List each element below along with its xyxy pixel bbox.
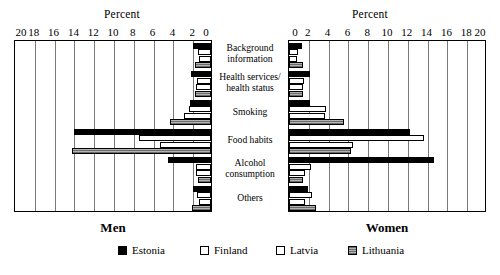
- bar-estonia: [289, 186, 308, 192]
- gridline: [35, 41, 36, 211]
- legend-item-lithuania: Lithuania: [348, 243, 404, 257]
- plot-area-women: [288, 40, 486, 212]
- axis-tick-label: 20: [16, 26, 27, 38]
- bar-estonia: [289, 71, 310, 77]
- axis-tick-label: 6: [345, 26, 351, 38]
- bar-estonia: [168, 157, 211, 163]
- category-label: Food habits: [213, 135, 287, 146]
- axis-tick-label: 10: [108, 26, 119, 38]
- bar-lithuania: [192, 205, 211, 211]
- legend-item-latvia: Latvia: [276, 243, 318, 257]
- bar-latvia: [196, 84, 211, 90]
- gridline: [329, 41, 330, 211]
- gridline: [388, 41, 389, 211]
- axis-tick-label: 4: [170, 26, 176, 38]
- axis-tick-label: 2: [305, 26, 311, 38]
- bar-latvia: [160, 142, 211, 148]
- x-axis-women: 02468101214161820: [288, 26, 486, 39]
- axis-tick-label: 0: [203, 26, 209, 38]
- bar-latvia: [199, 199, 211, 205]
- legend-swatch-finland-icon: [200, 246, 209, 255]
- axis-title-men: Percent: [104, 8, 140, 20]
- category-label: Smoking: [213, 106, 287, 117]
- axis-tick-label: 12: [88, 26, 99, 38]
- bar-finland: [289, 106, 326, 112]
- category-label: Alcohol consumption: [213, 158, 287, 179]
- bar-estonia: [191, 71, 211, 77]
- axis-tick-label: 12: [401, 26, 412, 38]
- bar-latvia: [199, 56, 211, 62]
- x-axis-men: 20181614121086420: [14, 26, 212, 39]
- axis-tick-label: 10: [382, 26, 393, 38]
- bar-estonia: [190, 100, 211, 106]
- gridline: [173, 41, 174, 211]
- gridline: [467, 41, 468, 211]
- bar-latvia: [184, 113, 211, 119]
- gridline: [134, 41, 135, 211]
- axis-tick-label: 18: [28, 26, 39, 38]
- legend-label-estonia: Estonia: [132, 244, 165, 256]
- bar-finland: [289, 49, 298, 55]
- bar-lithuania: [289, 205, 316, 211]
- gridline: [74, 41, 75, 211]
- chart-legend: Estonia Finland Latvia Lithuania: [0, 243, 500, 263]
- bar-estonia: [289, 43, 302, 49]
- legend-swatch-latvia-icon: [276, 246, 285, 255]
- bar-lithuania: [289, 119, 344, 125]
- bar-lithuania: [195, 91, 211, 97]
- axis-tick-label: 18: [461, 26, 472, 38]
- gridline: [428, 41, 429, 211]
- bar-latvia: [289, 170, 305, 176]
- bar-lithuania: [195, 62, 211, 68]
- bar-lithuania: [72, 148, 211, 154]
- gridline: [309, 41, 310, 211]
- bar-finland: [197, 192, 211, 198]
- gridline: [408, 41, 409, 211]
- category-label: Health services/ health status: [213, 72, 287, 93]
- legend-item-finland: Finland: [200, 243, 248, 257]
- gridline: [114, 41, 115, 211]
- gridline: [348, 41, 349, 211]
- bar-estonia: [289, 100, 310, 106]
- axis-tick-label: 0: [292, 26, 298, 38]
- bar-finland: [289, 135, 424, 141]
- bar-latvia: [289, 84, 303, 90]
- axis-tick-label: 20: [475, 26, 486, 38]
- bar-finland: [189, 106, 211, 112]
- legend-swatch-lithuania-icon: [348, 246, 357, 255]
- bar-finland: [289, 78, 304, 84]
- bar-finland: [289, 192, 312, 198]
- gridline: [368, 41, 369, 211]
- bar-finland: [198, 49, 211, 55]
- category-label: Background information: [213, 44, 287, 65]
- legend-item-estonia: Estonia: [118, 243, 165, 257]
- bar-estonia: [193, 43, 211, 49]
- bar-lithuania: [289, 148, 351, 154]
- bar-lithuania: [289, 91, 303, 97]
- bar-finland: [196, 164, 211, 170]
- legend-swatch-estonia-icon: [118, 246, 127, 255]
- legend-label-lithuania: Lithuania: [362, 244, 404, 256]
- gridline: [55, 41, 56, 211]
- bar-finland: [289, 164, 311, 170]
- axis-tick-label: 16: [48, 26, 59, 38]
- axis-tick-label: 6: [150, 26, 156, 38]
- bar-lithuania: [289, 177, 303, 183]
- axis-tick-label: 16: [441, 26, 452, 38]
- axis-tick-label: 8: [130, 26, 136, 38]
- bar-lithuania: [170, 119, 211, 125]
- axis-title-women: Percent: [352, 8, 388, 20]
- bar-latvia: [289, 199, 305, 205]
- axis-tick-label: 4: [325, 26, 331, 38]
- gridline: [94, 41, 95, 211]
- legend-label-latvia: Latvia: [290, 244, 318, 256]
- plot-area-men: [14, 40, 212, 212]
- bar-finland: [139, 135, 211, 141]
- axis-tick-label: 14: [421, 26, 432, 38]
- bar-latvia: [289, 142, 353, 148]
- bar-latvia: [289, 56, 297, 62]
- bar-latvia: [196, 170, 211, 176]
- bar-estonia: [289, 129, 410, 135]
- category-label: Others: [213, 192, 287, 203]
- bar-estonia: [193, 186, 211, 192]
